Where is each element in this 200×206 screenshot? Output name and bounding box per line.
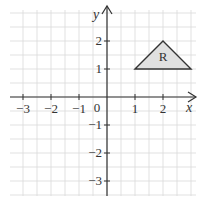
y-tick-label: −1 bbox=[88, 117, 102, 132]
origin-label: 0 bbox=[94, 100, 101, 115]
y-tick-label: 1 bbox=[96, 61, 103, 76]
grid-lines bbox=[10, 10, 196, 196]
coordinate-plane: R −3−2−112−3−2−112 x y 0 bbox=[0, 0, 200, 206]
x-tick-label: −2 bbox=[44, 101, 58, 116]
x-tick-label: 1 bbox=[132, 101, 139, 116]
x-axis-label: x bbox=[185, 100, 193, 115]
y-axis-label: y bbox=[91, 7, 100, 22]
x-tick-label: −1 bbox=[72, 101, 86, 116]
y-tick-label: 2 bbox=[96, 33, 103, 48]
x-tick-label: −3 bbox=[16, 101, 30, 116]
coordinate-diagram: R −3−2−112−3−2−112 x y 0 bbox=[0, 0, 200, 206]
tick-marks: −3−2−112−3−2−112 bbox=[16, 33, 166, 188]
y-tick-label: −2 bbox=[88, 145, 102, 160]
x-tick-label: 2 bbox=[160, 101, 167, 116]
triangle-label: R bbox=[159, 49, 168, 64]
axes bbox=[10, 6, 196, 196]
y-tick-label: −3 bbox=[88, 173, 102, 188]
